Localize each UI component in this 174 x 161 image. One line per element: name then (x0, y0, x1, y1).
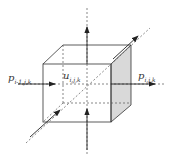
label-p-right: pi,j,k (138, 70, 156, 83)
label-p-left: pi-1,j,k (8, 72, 31, 85)
shaded-face (111, 45, 131, 122)
arrow-front-in (30, 110, 60, 137)
label-u-center: ui,j,k (63, 70, 81, 83)
